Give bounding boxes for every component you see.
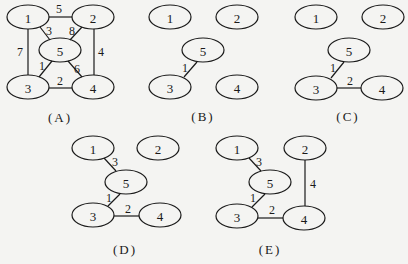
node-label: 5 <box>123 176 130 191</box>
node-label: 2 <box>155 142 162 157</box>
node-label: 5 <box>346 44 353 59</box>
node-1: 1 <box>149 5 191 29</box>
node-1: 1 <box>7 5 49 29</box>
edge-weight: 2 <box>347 74 353 88</box>
node-1: 1 <box>295 5 337 29</box>
panel-d: 31212534(D) <box>72 136 181 257</box>
node-5: 5 <box>105 170 147 194</box>
edge-weight: 7 <box>17 45 23 59</box>
edge-1-2: 5 <box>49 2 72 17</box>
node-2: 2 <box>284 136 326 160</box>
spanning-tree-diagram: 5387416212534(A)112534(B)1212534(C)31212… <box>0 0 408 264</box>
edge-weight: 1 <box>330 61 336 75</box>
panel-caption: (C) <box>336 109 359 124</box>
edge-weight: 1 <box>250 191 256 205</box>
node-4: 4 <box>139 203 181 227</box>
edge-2-4: 4 <box>94 29 104 75</box>
node-2: 2 <box>137 136 179 160</box>
panel-caption: (E) <box>259 242 282 257</box>
node-5: 5 <box>328 38 370 62</box>
edge-weight: 3 <box>46 24 52 38</box>
panel-caption: (B) <box>191 109 214 124</box>
edge-weight: 8 <box>69 24 75 38</box>
edge-3-4: 2 <box>114 202 139 216</box>
edge-weight: 5 <box>56 2 62 16</box>
node-label: 4 <box>157 209 164 224</box>
node-label: 5 <box>267 176 274 191</box>
node-2: 2 <box>362 5 404 29</box>
panel-caption: (D) <box>113 242 137 257</box>
edge-3-4: 2 <box>337 74 361 88</box>
node-5: 5 <box>39 38 81 62</box>
node-label: 1 <box>313 11 320 26</box>
node-3: 3 <box>149 75 191 99</box>
edge-5-3: 1 <box>182 61 197 77</box>
node-label: 3 <box>90 209 97 224</box>
edge-2-4: 4 <box>305 160 316 206</box>
edge-weight: 1 <box>106 191 112 205</box>
edge-weight: 2 <box>125 202 131 216</box>
node-label: 3 <box>167 81 174 96</box>
node-label: 4 <box>234 81 241 96</box>
edge-weight: 1 <box>39 59 45 73</box>
node-label: 5 <box>57 44 64 59</box>
edge-5-3: 1 <box>39 59 52 77</box>
edge-3-4: 2 <box>258 203 283 218</box>
node-label: 2 <box>234 11 241 26</box>
node-label: 2 <box>380 11 387 26</box>
node-3: 3 <box>72 203 114 227</box>
node-5: 5 <box>249 170 291 194</box>
edge-1-3: 7 <box>17 29 28 75</box>
node-1: 1 <box>216 136 258 160</box>
panel-a: 5387416212534(A) <box>7 2 114 125</box>
node-label: 3 <box>25 81 32 96</box>
node-label: 2 <box>302 142 309 157</box>
node-3: 3 <box>7 75 49 99</box>
edge-weight: 3 <box>112 155 118 169</box>
edge-weight: 3 <box>256 155 262 169</box>
edge-5-4: 6 <box>68 61 82 77</box>
node-label: 4 <box>379 82 386 97</box>
edge-weight: 4 <box>310 177 316 191</box>
edge-weight: 1 <box>182 61 188 75</box>
edge-weight: 4 <box>98 45 104 59</box>
node-4: 4 <box>361 76 403 100</box>
edge-5-3: 1 <box>330 61 344 78</box>
node-label: 3 <box>313 82 320 97</box>
node-3: 3 <box>216 204 258 228</box>
panel-caption: (A) <box>48 110 72 125</box>
panel-e: 341212534(E) <box>216 136 326 257</box>
node-1: 1 <box>72 136 114 160</box>
node-5: 5 <box>182 38 224 62</box>
node-4: 4 <box>283 206 325 230</box>
edge-weight: 6 <box>74 62 80 76</box>
node-label: 1 <box>234 142 241 157</box>
node-label: 1 <box>90 142 97 157</box>
node-label: 3 <box>234 210 241 225</box>
node-label: 2 <box>90 11 97 26</box>
node-2: 2 <box>72 5 114 29</box>
panel-c: 1212534(C) <box>295 5 404 124</box>
node-4: 4 <box>216 75 258 99</box>
node-2: 2 <box>216 5 258 29</box>
edge-weight: 2 <box>269 203 275 217</box>
node-label: 1 <box>167 11 174 26</box>
node-label: 5 <box>200 44 207 59</box>
panel-b: 112534(B) <box>149 5 258 124</box>
node-label: 1 <box>25 11 32 26</box>
node-label: 4 <box>90 81 97 96</box>
edge-3-4: 2 <box>49 74 72 88</box>
node-3: 3 <box>295 76 337 100</box>
node-label: 4 <box>301 212 308 227</box>
edge-weight: 2 <box>57 74 63 88</box>
node-4: 4 <box>72 75 114 99</box>
